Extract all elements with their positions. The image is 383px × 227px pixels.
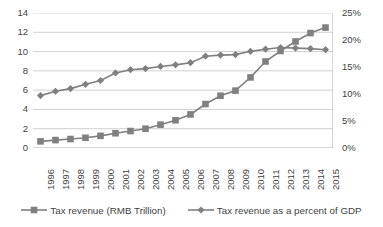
x-axis-tick-label: 2010 <box>255 169 266 190</box>
x-axis-tick-label: 2014 <box>315 169 326 190</box>
x-axis-tick-label: 2009 <box>240 169 251 190</box>
y-axis-right-labels: 0%5%10%15%20%25% <box>339 0 381 160</box>
y-axis-right-tick-label: 25% <box>342 8 361 18</box>
y-axis-right-tick-label: 10% <box>342 89 361 99</box>
chart-plot-svg <box>33 13 333 148</box>
y-axis-left-tick-label: 10 <box>17 47 28 57</box>
data-point-diamond <box>172 61 179 68</box>
data-point-square <box>112 130 119 137</box>
y-axis-left-tick-label: 2 <box>23 124 28 134</box>
data-point-square <box>157 121 164 128</box>
chart-container: 02468101214 0%5%10%15%20%25% 19961997199… <box>0 0 383 227</box>
y-axis-left-tick-label: 12 <box>17 27 28 37</box>
x-axis-tick-label: 2003 <box>150 169 161 190</box>
data-point-square <box>172 117 179 124</box>
x-axis-tick-label: 2012 <box>285 169 296 190</box>
data-point-square <box>187 111 194 118</box>
data-point-square <box>322 24 329 31</box>
y-axis-left-labels: 02468101214 <box>0 0 30 160</box>
data-point-diamond <box>247 48 254 55</box>
x-axis-tick-label: 1997 <box>60 169 71 190</box>
x-axis-tick-label: 2013 <box>300 169 311 190</box>
y-axis-right-tick-label: 5% <box>342 116 356 126</box>
data-point-diamond <box>157 63 164 70</box>
data-point-diamond <box>202 53 209 60</box>
x-axis-tick-label: 2007 <box>210 169 221 190</box>
legend-item-label: Tax revenue as a percent of GDP <box>217 205 362 216</box>
series-line <box>41 48 326 96</box>
data-point-square <box>82 134 89 141</box>
legend-diamond-marker-icon <box>188 204 214 216</box>
data-point-diamond <box>82 81 89 88</box>
data-point-square <box>37 138 44 145</box>
series-1 <box>37 24 329 144</box>
data-point-diamond <box>97 77 104 84</box>
legend-item[interactable]: Tax revenue as a percent of GDP <box>188 204 362 216</box>
data-point-diamond <box>127 66 134 73</box>
data-point-diamond <box>187 59 194 66</box>
data-point-diamond <box>322 46 329 53</box>
x-axis-tick-label: 2015 <box>330 169 341 190</box>
y-axis-left-tick-label: 0 <box>23 143 28 153</box>
data-point-square <box>307 30 314 37</box>
data-point-square <box>217 92 224 99</box>
data-point-diamond <box>217 52 224 59</box>
x-axis-tick-label: 2011 <box>270 170 281 190</box>
data-point-square <box>97 133 104 140</box>
x-axis-labels: 1996199719981999200020012002200320042005… <box>33 152 333 196</box>
y-axis-left-tick-label: 14 <box>17 8 28 18</box>
data-point-square <box>52 137 59 144</box>
y-axis-right-tick-label: 15% <box>342 62 361 72</box>
x-axis-tick-label: 2004 <box>165 169 176 190</box>
data-point-diamond <box>52 88 59 95</box>
data-point-square <box>247 74 254 81</box>
y-axis-left-tick-label: 4 <box>23 104 28 114</box>
x-axis-tick-label: 1998 <box>75 169 86 190</box>
data-point-square <box>67 136 74 143</box>
x-axis-tick-label: 2001 <box>120 169 131 190</box>
data-point-square <box>202 101 209 108</box>
x-axis-tick-label: 2006 <box>195 169 206 190</box>
legend-item-label: Tax revenue (RMB Trillion) <box>50 205 165 216</box>
data-point-square <box>127 128 134 135</box>
data-point-diamond <box>37 92 44 99</box>
y-axis-right-tick-label: 20% <box>342 35 361 45</box>
y-axis-left-tick-label: 8 <box>23 66 28 76</box>
x-axis-tick-label: 1996 <box>45 169 56 190</box>
data-point-square <box>262 58 269 65</box>
x-axis-tick-label: 2005 <box>180 169 191 190</box>
data-point-square <box>142 125 149 132</box>
data-point-square <box>292 38 299 45</box>
chart-legend: Tax revenue (RMB Trillion)Tax revenue as… <box>0 200 383 220</box>
y-axis-left-tick-label: 6 <box>23 85 28 95</box>
legend-square-marker-icon <box>21 204 47 216</box>
series-2 <box>37 44 329 99</box>
x-axis-tick-label: 2000 <box>105 169 116 190</box>
x-axis-tick-label: 2008 <box>225 169 236 190</box>
y-axis-right-tick-label: 0% <box>342 143 356 153</box>
plot-area <box>33 13 333 148</box>
x-axis-tick-label: 1999 <box>90 169 101 190</box>
data-point-square <box>232 87 239 94</box>
data-point-diamond <box>67 85 74 92</box>
x-axis-tick-label: 2002 <box>135 169 146 190</box>
legend-item[interactable]: Tax revenue (RMB Trillion) <box>21 204 165 216</box>
data-point-diamond <box>292 45 299 52</box>
